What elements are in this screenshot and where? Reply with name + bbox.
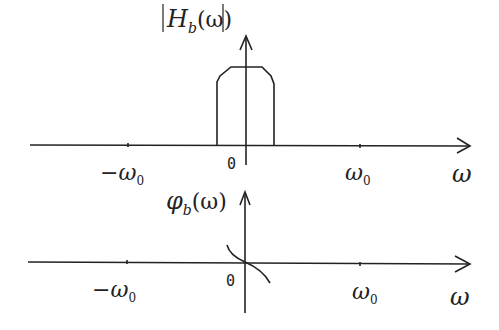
phase-xlabel: ω: [450, 283, 470, 311]
magnitude-tick-neg-omega0: −ω0: [100, 160, 144, 188]
magnitude-labels: Hb(ω) 0 −ω0 ω0 ω: [100, 5, 472, 188]
filter-response-diagram: Hb(ω) 0 −ω0 ω0 ω φb(ω) 0 −ω0 ω0 ω: [0, 0, 499, 330]
phase-ylabel: φb(ω): [166, 187, 227, 218]
phase-tick-neg-omega0: −ω0: [92, 277, 136, 305]
phase-tick-pos-omega0: ω0: [352, 279, 378, 307]
phase-labels: φb(ω) 0 −ω0 ω0 ω: [92, 187, 470, 311]
magnitude-tick-pos-omega0: ω0: [345, 160, 371, 188]
magnitude-xlabel: ω: [452, 160, 472, 188]
magnitude-x-axis: [30, 145, 470, 146]
magnitude-ylabel: Hb(ω): [166, 5, 232, 36]
magnitude-origin-label: 0: [227, 155, 236, 173]
magnitude-plot: [30, 4, 470, 165]
phase-origin-label: 0: [226, 272, 235, 290]
